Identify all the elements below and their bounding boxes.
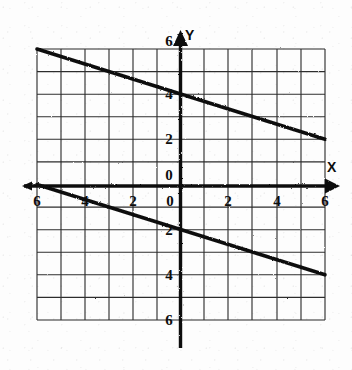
x-tick-label-neg4: 4 xyxy=(75,194,95,209)
graph-figure: 6 4 2 0 2 4 6 6 4 2 0 2 4 6 Y X xyxy=(0,0,352,370)
x-tick-label-neg2: 2 xyxy=(123,194,143,209)
y-tick-label-0: 0 xyxy=(161,168,177,183)
y-tick-label-neg2: 2 xyxy=(161,223,177,238)
x-tick-label-0: 0 xyxy=(160,194,180,209)
y-tick-label-pos2: 2 xyxy=(161,132,177,147)
y-axis xyxy=(173,30,188,348)
y-tick-label-neg6: 6 xyxy=(161,313,177,328)
x-tick-label-pos6: 6 xyxy=(315,194,335,209)
y-tick-label-pos4: 4 xyxy=(161,87,177,102)
y-tick-label-neg4: 4 xyxy=(161,268,177,283)
x-tick-label-neg6: 6 xyxy=(27,194,47,209)
x-axis-name-label: X xyxy=(327,160,336,174)
y-tick-label-pos6: 6 xyxy=(161,34,177,49)
x-tick-label-pos4: 4 xyxy=(267,194,287,209)
y-axis-name-label: Y xyxy=(185,28,194,42)
x-tick-label-pos2: 2 xyxy=(218,194,238,209)
